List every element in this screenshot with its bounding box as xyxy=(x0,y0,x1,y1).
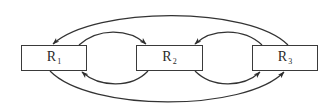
diagram-canvas: R1 R2 R3 xyxy=(0,0,336,107)
node-r3-label: R3 xyxy=(278,50,292,66)
edge-r1-to-r2 xyxy=(79,32,146,45)
node-r1: R1 xyxy=(21,45,87,71)
edge-r2-to-r3 xyxy=(195,71,260,84)
edge-r3-to-r2 xyxy=(195,32,262,45)
node-r2-label: R2 xyxy=(162,50,176,66)
node-r2: R2 xyxy=(136,45,203,71)
node-r1-label: R1 xyxy=(47,50,61,66)
edge-r3-to-r1 xyxy=(53,16,288,45)
edge-r1-to-r3 xyxy=(50,71,284,102)
edge-r2-to-r1 xyxy=(82,71,148,84)
node-r3: R3 xyxy=(252,45,318,71)
